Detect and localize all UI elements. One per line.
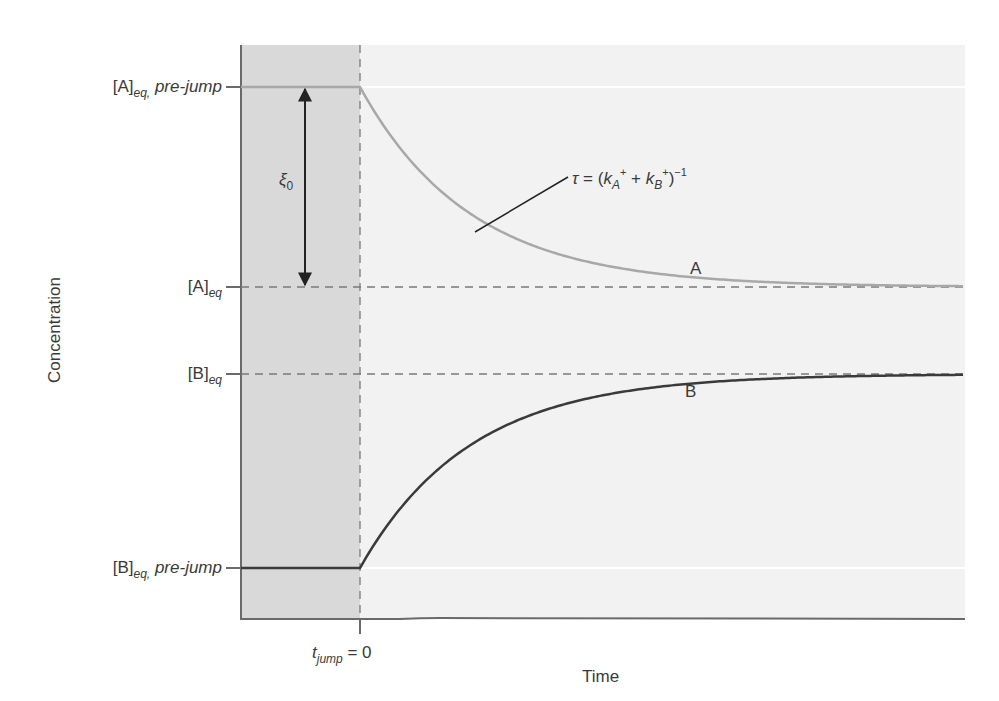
ytick-B-pre-jump: [B]eq, pre-jump [113, 559, 222, 576]
tau-annotation: τ = (kA+ + kB+)−1 [572, 170, 687, 187]
x-axis-label: Time [582, 668, 619, 685]
curve-A-label: A [690, 260, 701, 277]
ytick-B-eq: [B]eq [188, 365, 222, 382]
pre-jump-region [241, 45, 360, 619]
relaxation-diagram [0, 0, 999, 701]
ytick-A-pre-jump: [A]eq, pre-jump [113, 78, 222, 95]
post-jump-region [360, 45, 965, 619]
xi0-label: ξ0 [279, 171, 293, 188]
ytick-A-eq: [A]eq [188, 278, 222, 295]
x-axis [241, 618, 965, 619]
y-axis-label: Concentration [45, 277, 65, 383]
xtick-t-jump: tjump = 0 [312, 644, 372, 661]
curve-B-label: B [685, 383, 696, 400]
